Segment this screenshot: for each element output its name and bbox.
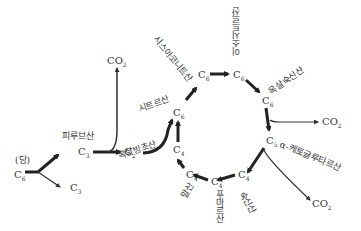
arrow-malate-to-oxaloacetate	[178, 160, 184, 168]
co2-label-oxalosuccinate: CO2	[322, 117, 342, 129]
co2-label-akg: CO2	[312, 199, 332, 211]
node-succinate-c4: C4	[238, 170, 249, 182]
arrow-co2-pyruvate	[108, 68, 117, 152]
arrow-akg-to-succinate	[248, 148, 264, 172]
node-citrate-c6: C6	[173, 108, 184, 120]
node-cisaconitate-c6: C6	[198, 70, 209, 82]
node-pyruvate-c3: C3	[78, 147, 89, 159]
arrow-iso-to-oxalosuccinate	[246, 80, 259, 92]
node-c3-lower: C3	[70, 183, 81, 195]
label-isocitrate: 이소시트르산	[232, 8, 241, 56]
node-akg-c5: C5	[266, 136, 277, 148]
node-oxalosuccinate-c6: C6	[262, 96, 273, 108]
label-sugar: (당)	[15, 156, 30, 165]
co2-label-pyruvate: CO2	[107, 56, 127, 68]
label-fumarate: 푸마르산	[214, 190, 223, 222]
arrow-sugar-to-c3	[38, 172, 60, 187]
arrow-oxalosuccinate-to-akg	[266, 108, 269, 130]
arrow-co2-oxalosuccinate	[270, 120, 318, 122]
node-isocitrate-c6: C6	[233, 70, 244, 82]
node-oxaloacetate-c4: C4	[173, 145, 184, 157]
node-sugar-c6: C6	[14, 170, 25, 182]
label-pyruvate: 피루브산	[62, 132, 94, 141]
node-fumarate-c4: C4	[211, 177, 222, 189]
arrow-citrate-to-cisaconitate	[186, 88, 196, 100]
